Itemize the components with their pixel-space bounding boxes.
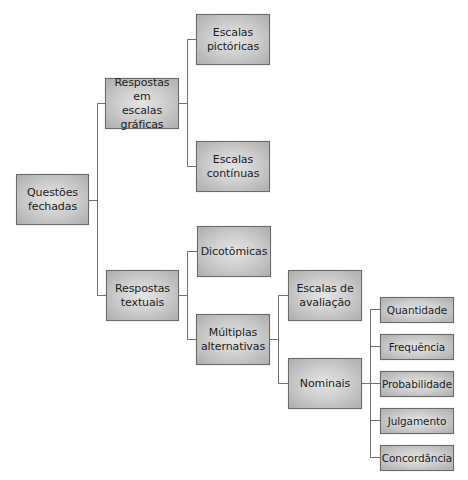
node-label: Dicotômicas bbox=[201, 245, 268, 259]
node-label: Frequência bbox=[389, 340, 445, 354]
node-nominais: Nominais bbox=[288, 358, 362, 409]
node-respostas-escalas-graficas: Respostas em escalas gráficas bbox=[105, 78, 179, 129]
node-label: Respostas textuais bbox=[115, 282, 170, 310]
node-escalas-continuas: Escalas contínuas bbox=[196, 141, 270, 192]
node-label: Múltiplas alternativas bbox=[201, 326, 265, 354]
node-label: Escalas de avaliação bbox=[296, 282, 353, 310]
node-julgamento: Julgamento bbox=[380, 408, 454, 434]
node-escalas-pictoricas: Escalas pictóricas bbox=[196, 14, 270, 65]
node-dicotomicas: Dicotômicas bbox=[197, 226, 271, 277]
node-frequencia: Frequência bbox=[380, 334, 454, 360]
node-label: Respostas em escalas gráficas bbox=[106, 76, 178, 132]
node-questoes-fechadas: Questões fechadas bbox=[16, 174, 89, 225]
node-label: Probabilidade bbox=[382, 377, 452, 391]
node-label: Escalas pictóricas bbox=[207, 26, 259, 54]
node-label: Julgamento bbox=[388, 414, 447, 428]
node-probabilidade: Probabilidade bbox=[380, 371, 454, 397]
node-escalas-avaliacao: Escalas de avaliação bbox=[288, 270, 362, 321]
node-quantidade: Quantidade bbox=[380, 297, 454, 323]
node-label: Questões fechadas bbox=[27, 186, 78, 214]
node-label: Nominais bbox=[300, 377, 350, 391]
node-concordancia: Concordância bbox=[380, 445, 454, 471]
node-multiplas-alternativas: Múltiplas alternativas bbox=[196, 314, 270, 365]
node-label: Quantidade bbox=[387, 303, 447, 317]
node-label: Concordância bbox=[382, 451, 452, 465]
node-respostas-textuais: Respostas textuais bbox=[106, 270, 179, 321]
node-label: Escalas contínuas bbox=[207, 153, 260, 181]
question-type-tree-diagram: Questões fechadas Respostas em escalas g… bbox=[0, 0, 468, 480]
